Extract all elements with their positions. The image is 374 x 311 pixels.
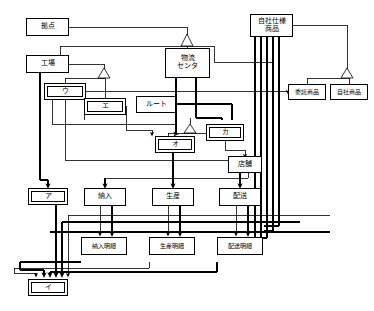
generalization-triangle-o-ka	[184, 124, 196, 133]
node-label: ア	[45, 193, 52, 201]
node-placeholder-a[interactable]: ア	[28, 188, 68, 205]
diagram-canvas: 拠点 工場 物流 センタ 自社仕様 商品 委託商品 自社商品 ウ エ ルート オ…	[0, 0, 374, 311]
node-inner-border: ア	[31, 191, 65, 202]
node-label: 店舗	[238, 161, 252, 169]
node-label: 物流 センタ	[177, 55, 198, 71]
node-jisha-shouhin[interactable]: 自社商品	[330, 84, 368, 100]
node-itaku-shouhin[interactable]: 委託商品	[288, 84, 326, 100]
node-seisan-meisai[interactable]: 生産明細	[149, 237, 195, 255]
node-jisha-shiyou-shouhin[interactable]: 自社仕様 商品	[250, 14, 293, 37]
node-placeholder-e[interactable]: エ	[84, 98, 126, 115]
generalization-triangle-kyoten	[181, 34, 193, 46]
node-label: 配送明細	[228, 243, 252, 250]
node-label: エ	[102, 103, 109, 111]
node-label: 配送	[233, 193, 247, 201]
node-inner-border: エ	[87, 101, 123, 112]
node-inner-border: カ	[209, 127, 241, 138]
node-label: 納入	[98, 193, 112, 201]
generalization-triangle-koujou	[98, 68, 110, 78]
node-nounyuu[interactable]: 納入	[84, 188, 126, 206]
node-label: 生産明細	[160, 243, 184, 250]
node-inner-border: イ	[31, 282, 65, 293]
node-label: カ	[222, 129, 229, 137]
node-label: ルート	[146, 101, 167, 109]
connector-lines	[0, 0, 374, 311]
node-label: 生産	[166, 193, 180, 201]
node-label: ウ	[62, 88, 69, 96]
node-haisou[interactable]: 配送	[219, 188, 261, 206]
node-label: 自社商品	[337, 89, 361, 96]
node-label: 工場	[41, 60, 55, 68]
node-placeholder-ka[interactable]: カ	[206, 124, 244, 141]
node-inner-border: ウ	[47, 86, 83, 97]
node-nounyuu-meisai[interactable]: 納入明細	[81, 237, 127, 255]
node-placeholder-o[interactable]: オ	[155, 136, 195, 153]
node-placeholder-u[interactable]: ウ	[44, 83, 86, 100]
node-butsuryu-center[interactable]: 物流 センタ	[165, 48, 210, 78]
node-label: 委託商品	[295, 89, 319, 96]
node-kyoten[interactable]: 拠点	[26, 18, 69, 36]
node-placeholder-i[interactable]: イ	[28, 279, 68, 296]
node-label: 拠点	[41, 23, 55, 31]
node-haisou-meisai[interactable]: 配送明細	[217, 237, 263, 255]
node-label: 自社仕様 商品	[258, 18, 286, 34]
node-route[interactable]: ルート	[136, 96, 176, 113]
generalization-triangle-jisha	[341, 68, 353, 78]
node-inner-border: オ	[158, 139, 192, 150]
node-label: オ	[172, 141, 179, 149]
node-label: 納入明細	[92, 243, 116, 250]
node-koujou[interactable]: 工場	[26, 55, 69, 73]
node-label: イ	[45, 284, 52, 292]
node-seisan[interactable]: 生産	[152, 188, 194, 206]
node-tenpo[interactable]: 店舗	[228, 156, 262, 173]
